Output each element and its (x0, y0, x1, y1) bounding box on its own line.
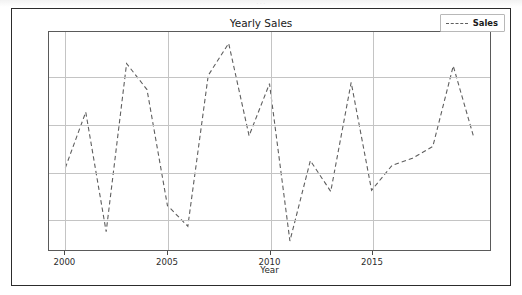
x-axis-tick-mark (64, 251, 65, 255)
gridline-vertical (373, 32, 374, 250)
gridline-horizontal (49, 220, 490, 221)
legend-line-sample (446, 23, 468, 24)
gridline-vertical (271, 32, 272, 250)
gridline-horizontal (49, 173, 490, 174)
y-axis-tick-mark (48, 173, 49, 174)
gridline-horizontal (49, 125, 490, 126)
y-axis-tick-mark (48, 220, 49, 221)
x-axis-tick-mark (167, 251, 168, 255)
gridline-vertical (65, 32, 66, 250)
page-title: Yearly Sales (12, 17, 510, 29)
y-axis-tick-mark (48, 125, 49, 126)
figure-panel: Yearly Sales 2000400060008000 2000200520… (11, 8, 511, 286)
x-axis-tick-mark (270, 251, 271, 255)
x-axis-label: Year (48, 265, 491, 275)
gridline-vertical (168, 32, 169, 250)
chart-legend: Sales (440, 14, 505, 32)
legend-item-label: Sales (473, 18, 498, 28)
top-edge-artifact: · · · (0, 0, 522, 7)
series-line-sales (65, 43, 473, 241)
gridline-horizontal (49, 77, 490, 78)
x-axis-tick-mark (372, 251, 373, 255)
plot-area: 2000400060008000 (48, 31, 491, 251)
series-sales-line (49, 32, 490, 250)
y-axis-tick-mark (48, 77, 49, 78)
